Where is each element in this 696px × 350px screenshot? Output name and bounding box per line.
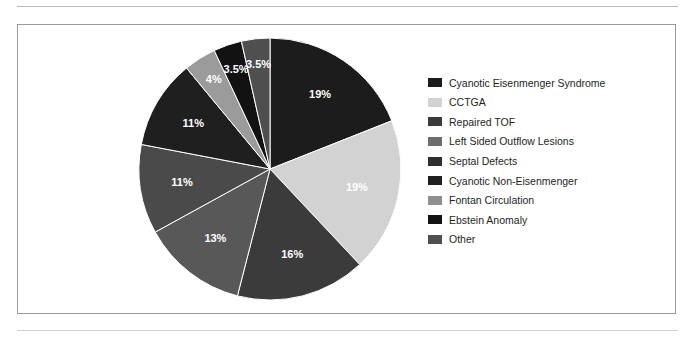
pie-slices-group	[139, 38, 401, 300]
legend-swatch-icon	[428, 235, 442, 244]
legend-item: Ebstein Anomaly	[428, 210, 668, 230]
legend-item: Other	[428, 230, 668, 250]
pie-slice-label: 16%	[281, 248, 303, 260]
pie-slice-label: 13%	[204, 232, 226, 244]
legend-swatch-icon	[428, 78, 442, 87]
legend-swatch-icon	[428, 98, 442, 107]
legend-item-label: CCTGA	[449, 97, 486, 108]
legend-swatch-icon	[428, 137, 442, 146]
pie-slice-label: 11%	[183, 117, 205, 129]
pie-chart-svg: 19%19%16%13%11%11%4%3.5%3.5%	[136, 35, 404, 303]
legend-item-label: Fontan Circulation	[449, 195, 534, 206]
legend-item-label: Left Sided Outflow Lesions	[449, 136, 574, 147]
pie-chart-area: 19%19%16%13%11%11%4%3.5%3.5% Cyanotic Ei…	[18, 25, 677, 313]
pie-slice-label: 3.5%	[246, 58, 271, 70]
legend-swatch-icon	[428, 176, 442, 185]
legend-item: CCTGA	[428, 93, 668, 113]
legend-item: Septal Defects	[428, 151, 668, 171]
legend-swatch-icon	[428, 117, 442, 126]
pie-slice-label: 11%	[171, 176, 193, 188]
legend-item-label: Other	[449, 234, 475, 245]
legend-item-label: Septal Defects	[449, 156, 517, 167]
legend-item-label: Cyanotic Eisenmenger Syndrome	[449, 78, 605, 89]
legend-item-label: Ebstein Anomaly	[449, 215, 527, 226]
bottom-divider	[17, 330, 678, 331]
legend-item: Left Sided Outflow Lesions	[428, 132, 668, 152]
pie-slice-label: 19%	[309, 88, 331, 100]
legend-item: Fontan Circulation	[428, 191, 668, 211]
legend-swatch-icon	[428, 196, 442, 205]
pie-slice-label: 19%	[346, 181, 368, 193]
legend-item: Cyanotic Non-Eisenmenger	[428, 171, 668, 191]
figure-container: 19%19%16%13%11%11%4%3.5%3.5% Cyanotic Ei…	[17, 24, 676, 314]
legend-item: Repaired TOF	[428, 112, 668, 132]
pie-chart: 19%19%16%13%11%11%4%3.5%3.5%	[136, 35, 404, 303]
legend-item: Cyanotic Eisenmenger Syndrome	[428, 73, 668, 93]
top-divider	[17, 6, 678, 7]
legend-item-label: Repaired TOF	[449, 117, 515, 128]
legend-item-label: Cyanotic Non-Eisenmenger	[449, 176, 577, 187]
chart-legend: Cyanotic Eisenmenger SyndromeCCTGARepair…	[428, 73, 668, 249]
pie-slice-label: 4%	[206, 73, 222, 85]
legend-swatch-icon	[428, 157, 442, 166]
legend-swatch-icon	[428, 215, 442, 224]
screenshot-page: 19%19%16%13%11%11%4%3.5%3.5% Cyanotic Ei…	[0, 0, 696, 350]
